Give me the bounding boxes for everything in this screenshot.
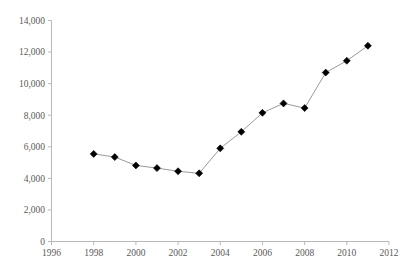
data-point-marker [301,105,308,112]
x-tick-label: 2004 [211,248,230,258]
x-tick-label: 2008 [295,248,314,258]
y-tick-label: 8,000 [24,111,46,121]
chart-plot-area: 02,0004,0006,0008,00010,00012,00014,000 … [0,0,408,274]
y-axis: 02,0004,0006,0008,00010,00012,00014,000 [19,16,52,247]
data-point-marker [111,154,118,161]
y-tick-label: 12,000 [19,47,45,57]
x-tick-label: 2006 [253,248,272,258]
x-tick-label: 1996 [42,248,61,258]
x-tick-label: 2012 [380,248,399,258]
y-tick-label: 6,000 [24,142,46,152]
series-line [94,46,368,174]
data-series [94,46,368,174]
data-point-marker [132,162,139,169]
data-point-marker [175,168,182,175]
data-point-marker [322,69,329,76]
x-tick-label: 2010 [337,248,356,258]
data-point-marker [90,150,97,157]
y-tick-label: 2,000 [24,205,46,215]
y-tick-label: 10,000 [19,79,45,89]
line-chart: 02,0004,0006,0008,00010,00012,00014,000 … [0,0,408,274]
x-tick-label: 2002 [169,248,188,258]
data-point-marker [343,57,350,64]
data-point-marker [364,42,371,49]
y-tick-label: 4,000 [24,174,46,184]
data-point-marker [280,100,287,107]
x-axis: 199619982000200220042006200820102012 [42,242,399,259]
data-point-marker [153,165,160,172]
data-markers [90,42,371,177]
y-tick-label: 14,000 [19,16,45,26]
x-tick-label: 1998 [84,248,103,258]
x-tick-label: 2000 [126,248,145,258]
y-tick-label: 0 [40,237,45,247]
